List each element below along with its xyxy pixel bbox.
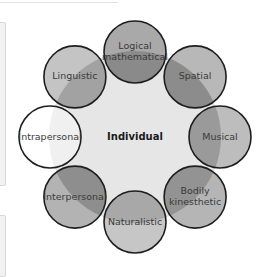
node-linguistic: Linguistic — [44, 46, 106, 108]
node-label: Naturalistic — [108, 216, 162, 227]
node-label: kinesthetic — [169, 196, 221, 207]
center-label: Individual — [107, 131, 163, 142]
node-label: Bodily — [180, 185, 210, 196]
node-naturalistic: Naturalistic — [104, 191, 166, 253]
node-label: Interpersonal — [43, 191, 106, 202]
node-bodily-kinesthetic: Bodilykinesthetic — [164, 166, 226, 228]
node-label: Musical — [202, 131, 238, 142]
node-logical-mathematical: Logicalmathematical — [102, 21, 168, 83]
node-label: mathematical — [102, 51, 168, 62]
node-spatial: Spatial — [164, 46, 226, 108]
node-label: Intrapersonal — [18, 131, 81, 142]
node-label: Linguistic — [52, 70, 97, 81]
node-interpersonal: Interpersonal — [43, 166, 106, 228]
node-intrapersonal: Intrapersonal — [18, 106, 81, 168]
node-musical: Musical — [189, 106, 251, 168]
node-label: Spatial — [179, 70, 212, 81]
node-label: Logical — [118, 40, 151, 51]
